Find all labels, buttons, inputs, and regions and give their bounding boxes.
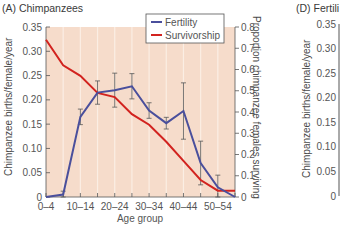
panel-d-left-ticks: 0.350.300.250.200.150.100.050 [317,19,337,202]
legend-survivorship: Survivorship [165,30,220,41]
left-y-axis-label: Chimpanzee births/female/year [3,38,14,176]
svg-text:0.25: 0.25 [23,70,43,81]
svg-text:0.20: 0.20 [23,94,43,105]
svg-text:0.15: 0.15 [317,117,337,128]
svg-text:30–34: 30–34 [135,201,163,212]
svg-text:50–54: 50–54 [204,201,232,212]
svg-text:20–24: 20–24 [101,201,129,212]
svg-text:10–14: 10–14 [66,201,94,212]
x-axis-label: Age group [117,213,164,224]
legend: Fertility Survivorship [146,14,224,43]
right-y-axis-label: Proportion chimpanzee females surviving [251,16,262,199]
svg-text:0.35: 0.35 [23,22,43,33]
svg-text:0.25: 0.25 [317,68,337,79]
svg-text:0.05: 0.05 [23,167,43,178]
svg-text:0–4: 0–4 [38,201,55,212]
svg-text:0.10: 0.10 [317,141,337,152]
svg-text:0.20: 0.20 [317,92,337,103]
svg-text:0.35: 0.35 [317,19,337,30]
panel-d-y-axis-label: Chimpanzee births/female/year [301,40,312,178]
svg-text:0.05: 0.05 [317,166,337,177]
svg-text:0.15: 0.15 [23,119,43,130]
svg-text:0.30: 0.30 [23,46,43,57]
svg-text:0.30: 0.30 [317,43,337,54]
svg-text:40–44: 40–44 [170,201,198,212]
chart-panel-a: 00.050.100.150.200.250.300.35 00.10.20.3… [0,0,340,231]
svg-text:0: 0 [330,191,336,202]
svg-text:0.10: 0.10 [23,143,43,154]
svg-text:0: 0 [241,192,247,203]
legend-fertility: Fertility [165,17,197,28]
